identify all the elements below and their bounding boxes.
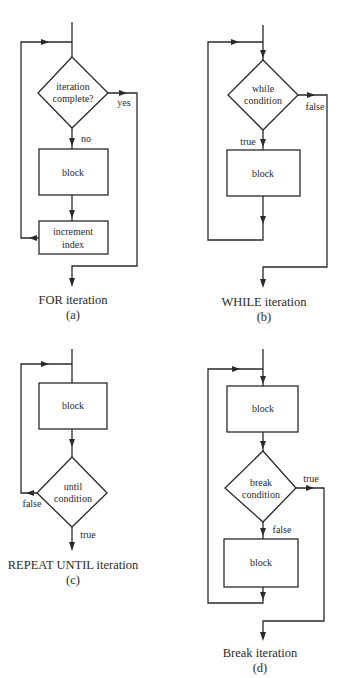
arrow-down-icon: [69, 138, 75, 146]
no-label: no: [81, 133, 91, 144]
false-label: false: [306, 101, 325, 112]
increment-text-line1: increment: [53, 226, 93, 237]
arrow-left-icon: [26, 490, 34, 496]
block1-text: block: [252, 403, 274, 414]
arrow-right-icon: [307, 92, 315, 98]
arrow-down-icon: [69, 542, 75, 551]
false-label: false: [23, 498, 42, 509]
true-label: true: [240, 136, 256, 147]
false-label: false: [273, 524, 292, 535]
block2-text: block: [250, 557, 272, 568]
caption-for-iteration: FOR iteration: [38, 293, 108, 307]
caption-sub-a: (a): [66, 308, 80, 322]
while-iteration-diagram: while condition false true block WHILE i…: [208, 25, 327, 324]
arrow-down-icon: [260, 528, 266, 536]
arrow-down-icon: [260, 279, 266, 288]
decision-text-line1: break: [250, 477, 272, 488]
caption-while-iteration: WHILE iteration: [221, 295, 307, 309]
decision-text-line2: condition: [54, 493, 92, 504]
arrow-right-icon: [232, 366, 240, 372]
decision-text-line2: condition: [244, 95, 282, 106]
block-text: block: [62, 167, 84, 178]
true-label: true: [80, 529, 96, 540]
arrow-down-icon: [69, 278, 75, 287]
arrow-left-icon: [29, 235, 37, 241]
decision-text-line1: while: [252, 83, 275, 94]
increment-text-line2: index: [62, 239, 84, 250]
caption-sub-d: (d): [253, 661, 268, 675]
arrow-right-icon: [41, 361, 49, 367]
arrow-right-icon: [41, 39, 49, 45]
repeat-until-iteration-diagram: false block until condition true REPEAT …: [8, 349, 139, 587]
arrow-down-icon: [260, 50, 266, 58]
true-label: true: [303, 473, 319, 484]
arrow-down-icon: [69, 210, 75, 218]
decision-text-line1: until: [64, 481, 83, 492]
arrow-down-icon: [260, 592, 266, 600]
caption-sub-c: (c): [66, 573, 80, 587]
yes-label: yes: [117, 97, 130, 108]
arrow-right-icon: [306, 485, 314, 491]
arrow-down-icon: [260, 441, 266, 449]
caption-break-iteration: Break iteration: [223, 646, 298, 660]
arrow-down-icon: [69, 439, 75, 447]
for-iteration-diagram: iteration complete? yes no block increme…: [21, 22, 137, 322]
break-iteration-diagram: block break condition true false block B…: [208, 349, 324, 675]
arrow-right-icon: [119, 90, 127, 96]
decision-text-line1: iteration: [56, 81, 89, 92]
iteration-flowcharts: iteration complete? yes no block increme…: [0, 0, 344, 678]
arrow-down-icon: [260, 376, 266, 384]
block-text: block: [252, 168, 274, 179]
arrow-down-icon: [260, 216, 266, 224]
caption-repeat-until-iteration: REPEAT UNTIL iteration: [8, 558, 139, 572]
arrow-down-icon: [260, 139, 266, 147]
block-text: block: [62, 400, 84, 411]
decision-until-condition: [37, 457, 107, 527]
decision-text-line2: complete?: [52, 93, 94, 104]
arrow-down-icon: [260, 632, 266, 641]
decision-text-line2: condition: [242, 489, 280, 500]
caption-sub-b: (b): [257, 310, 272, 324]
arrow-right-icon: [231, 39, 239, 45]
